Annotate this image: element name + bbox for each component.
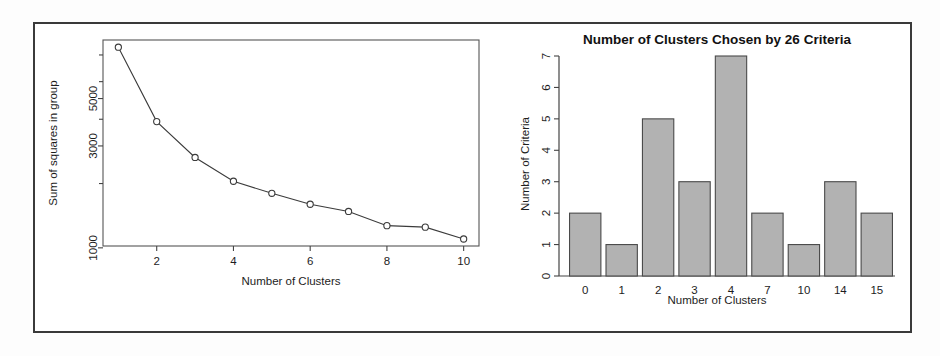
criteria-bar-chart-y-tick-label: 3 — [540, 179, 552, 185]
elbow-plot-x-tick-label: 2 — [154, 255, 160, 267]
criteria-bar-chart-y-tick-label: 5 — [540, 116, 552, 122]
figure-outer-border: 100030005000 246810 Number of Clusters S… — [33, 22, 912, 333]
elbow-plot-y-tick-label: 1000 — [87, 235, 99, 261]
criteria-bar-chart-bar — [861, 213, 892, 276]
criteria-bar-chart-x-tick-label: 10 — [797, 284, 810, 296]
criteria-bar-chart-y-tick-label: 2 — [540, 210, 552, 216]
elbow-plot-data-point — [115, 44, 121, 50]
elbow-plot-x-tick-label: 8 — [384, 255, 390, 267]
elbow-plot-panel: 100030005000 246810 Number of Clusters S… — [35, 24, 505, 331]
elbow-plot-x-axis-label: Number of Clusters — [241, 275, 340, 287]
criteria-bar-chart-bars — [570, 56, 893, 276]
elbow-plot-data-point — [154, 119, 160, 125]
criteria-bar-chart-bar — [715, 56, 746, 276]
criteria-bar-chart-bar — [570, 213, 601, 276]
criteria-bar-chart-bar — [679, 182, 710, 276]
elbow-plot-data-point — [192, 154, 198, 160]
criteria-bar-chart-x-tick-label: 1 — [618, 284, 624, 296]
criteria-bar-chart-x-tick-label: 15 — [870, 284, 883, 296]
criteria-bar-chart-x-axis-label: Number of Clusters — [667, 294, 766, 306]
elbow-plot-data-point — [345, 208, 351, 214]
criteria-bar-chart-y-axis-label: Number of Criteria — [519, 116, 531, 211]
elbow-plot-data-point — [307, 201, 313, 207]
elbow-plot-series — [115, 44, 467, 242]
elbow-plot-x-axis: 246810 — [154, 246, 471, 267]
criteria-bar-chart-y-tick-label: 6 — [540, 84, 552, 90]
elbow-plot-y-tick-label: 3000 — [87, 133, 99, 159]
criteria-bar-chart-y-axis: 01234567 — [540, 53, 559, 279]
elbow-plot-data-point — [269, 190, 275, 196]
criteria-bar-chart-x-axis: 012347101415 — [559, 276, 895, 296]
elbow-plot-data-point — [230, 178, 236, 184]
criteria-bar-chart-svg: Number of Clusters Chosen by 26 Criteria… — [505, 24, 914, 331]
criteria-bar-chart-y-tick-label: 0 — [540, 273, 552, 279]
criteria-bar-chart-y-tick-label: 4 — [540, 146, 552, 153]
elbow-plot-x-tick-label: 4 — [230, 255, 237, 267]
figure-root: 100030005000 246810 Number of Clusters S… — [0, 0, 940, 356]
elbow-plot-data-point — [422, 224, 428, 230]
elbow-plot-data-point — [384, 223, 390, 229]
criteria-bar-chart-bar — [788, 245, 819, 276]
criteria-bar-chart-x-tick-label: 14 — [834, 284, 847, 296]
elbow-plot-y-axis-label: Sum of squares in group — [47, 80, 59, 205]
criteria-bar-chart-y-tick-label: 1 — [540, 241, 552, 247]
criteria-bar-chart-bar — [606, 245, 637, 276]
elbow-plot-y-axis: 100030005000 — [87, 55, 103, 261]
criteria-bar-chart-bar — [825, 182, 856, 276]
elbow-plot-y-tick-label: 5000 — [87, 86, 99, 112]
criteria-bar-chart-x-tick-label: 0 — [582, 284, 588, 296]
elbow-plot-frame — [103, 40, 479, 246]
elbow-plot-x-tick-label: 6 — [307, 255, 313, 267]
elbow-plot-data-point — [461, 236, 467, 242]
criteria-bar-chart-title: Number of Clusters Chosen by 26 Criteria — [583, 32, 851, 47]
elbow-plot-x-tick-label: 10 — [457, 255, 470, 267]
elbow-plot-svg: 100030005000 246810 Number of Clusters S… — [35, 24, 505, 331]
criteria-bar-chart-bar — [642, 119, 673, 276]
elbow-plot-line — [118, 47, 463, 239]
criteria-bar-chart-y-tick-label: 7 — [540, 53, 552, 59]
criteria-bar-chart-panel: Number of Clusters Chosen by 26 Criteria… — [505, 24, 914, 331]
criteria-bar-chart-x-tick-label: 2 — [655, 284, 661, 296]
criteria-bar-chart-bar — [752, 213, 783, 276]
